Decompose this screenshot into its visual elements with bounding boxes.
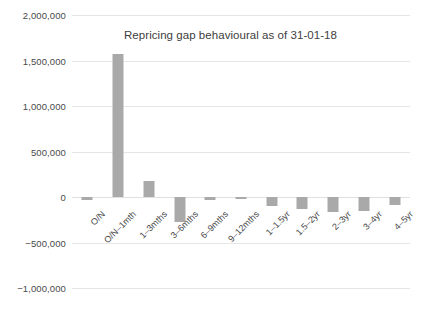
bar-slot xyxy=(226,15,257,288)
bar-slot xyxy=(195,15,226,288)
gridline--1000000 xyxy=(72,288,410,289)
bar-slot xyxy=(287,15,318,288)
bar[interactable] xyxy=(358,197,369,211)
y-tick-label: −500,000 xyxy=(25,237,66,248)
bar-slot xyxy=(318,15,349,288)
bar-chart: Repricing gap behavioural as of 31-01-18… xyxy=(0,0,421,317)
bar[interactable] xyxy=(205,197,216,200)
bar[interactable] xyxy=(389,197,400,205)
y-tick-label: 0 xyxy=(61,192,66,203)
bar[interactable] xyxy=(266,197,277,206)
bar[interactable] xyxy=(143,181,154,197)
bar[interactable] xyxy=(297,197,308,209)
bar-slot xyxy=(133,15,164,288)
bar-slot xyxy=(379,15,410,288)
y-tick-label: −1,000,000 xyxy=(17,283,66,294)
y-axis-tick-labels: 2,000,0001,500,0001,000,000500,0000−500,… xyxy=(0,0,66,317)
y-tick-label: 1,500,000 xyxy=(23,55,66,66)
bar[interactable] xyxy=(174,197,185,222)
bar-slot xyxy=(72,15,103,288)
y-tick-label: 500,000 xyxy=(31,146,66,157)
bars-layer xyxy=(72,15,410,288)
bar[interactable] xyxy=(113,54,124,197)
bar-slot xyxy=(349,15,380,288)
bar-slot xyxy=(164,15,195,288)
bar-slot xyxy=(256,15,287,288)
plot-area xyxy=(72,15,410,288)
bar[interactable] xyxy=(82,197,93,200)
bar[interactable] xyxy=(328,197,339,212)
bar-slot xyxy=(103,15,134,288)
bar[interactable] xyxy=(235,197,246,199)
y-tick-label: 1,000,000 xyxy=(23,101,66,112)
y-tick-label: 2,000,000 xyxy=(23,10,66,21)
